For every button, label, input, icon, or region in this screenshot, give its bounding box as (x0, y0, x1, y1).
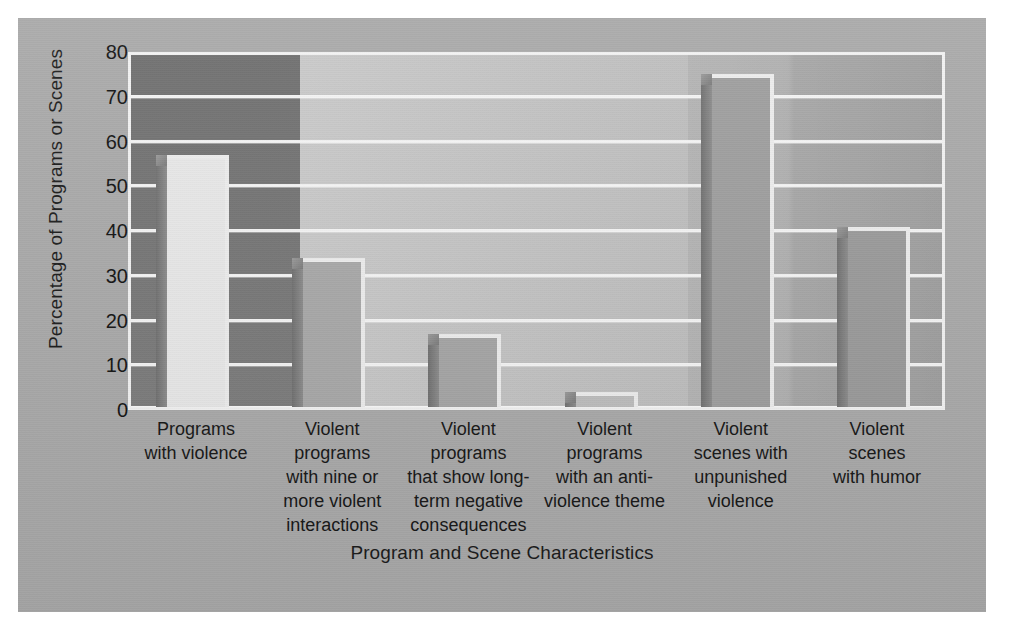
x-tick-4: Violentprogramswith an anti-violence the… (537, 418, 673, 514)
x-tick-line: with violence (128, 442, 264, 466)
gridline-30 (128, 274, 945, 277)
x-tick-line: more violent (264, 490, 400, 514)
gridline-70 (128, 95, 945, 98)
x-tick-line: violence (673, 490, 809, 514)
x-tick-line: Violent (264, 418, 400, 442)
x-tick-line: with humor (809, 466, 945, 490)
y-tick-60: 60 (70, 132, 128, 152)
x-tick-line: consequences (400, 514, 536, 538)
x-tick-2: Violentprogramswith nine ormore violenti… (264, 418, 400, 538)
x-tick-line: interactions (264, 514, 400, 538)
gridline-80 (128, 52, 945, 53)
x-tick-line: with nine or (264, 466, 400, 490)
gridline-60 (128, 140, 945, 143)
y-axis-tick-labels: 80706050403020100 (70, 52, 128, 428)
plot-area (128, 52, 945, 410)
bar-3 (435, 334, 501, 410)
y-tick-0: 0 (70, 400, 128, 420)
chart-figure: Percentage of Programs or Scenes 8070605… (18, 18, 986, 612)
x-tick-6: Violentsceneswith humor (809, 418, 945, 490)
x-tick-line: scenes (809, 442, 945, 466)
x-tick-1: Programswith violence (128, 418, 264, 466)
x-tick-line: with an anti- (537, 466, 673, 490)
y-tick-40: 40 (70, 221, 128, 241)
x-tick-line: Programs (128, 418, 264, 442)
bar-6 (844, 227, 910, 410)
x-axis-tick-labels: Programswith violenceViolentprogramswith… (128, 418, 945, 538)
x-tick-3: Violentprogramsthat show long-term negat… (400, 418, 536, 538)
gridline-50 (128, 184, 945, 187)
y-tick-20: 20 (70, 311, 128, 331)
gridline-0 (128, 406, 945, 410)
y-tick-50: 50 (70, 176, 128, 196)
bar-2 (299, 258, 365, 410)
y-axis-title: Percentage of Programs or Scenes (45, 49, 67, 349)
gridline-10 (128, 363, 945, 366)
bar-1 (163, 155, 229, 410)
x-axis-title: Program and Scene Characteristics (18, 542, 986, 564)
y-tick-10: 10 (70, 355, 128, 375)
x-tick-line: programs (400, 442, 536, 466)
x-tick-line: term negative (400, 490, 536, 514)
gridline-20 (128, 319, 945, 322)
x-tick-5: Violentscenes withunpunishedviolence (673, 418, 809, 514)
x-tick-line: that show long- (400, 466, 536, 490)
x-tick-line: programs (264, 442, 400, 466)
gridline-40 (128, 229, 945, 232)
y-tick-70: 70 (70, 87, 128, 107)
x-tick-line: Violent (537, 418, 673, 442)
x-tick-line: scenes with (673, 442, 809, 466)
y-tick-30: 30 (70, 266, 128, 286)
x-tick-line: programs (537, 442, 673, 466)
bar-4 (572, 392, 638, 410)
x-tick-line: Violent (400, 418, 536, 442)
x-tick-line: Violent (673, 418, 809, 442)
x-tick-line: violence theme (537, 490, 673, 514)
x-tick-line: unpunished (673, 466, 809, 490)
bar-5 (708, 74, 774, 410)
x-tick-line: Violent (809, 418, 945, 442)
y-tick-80: 80 (70, 42, 128, 62)
